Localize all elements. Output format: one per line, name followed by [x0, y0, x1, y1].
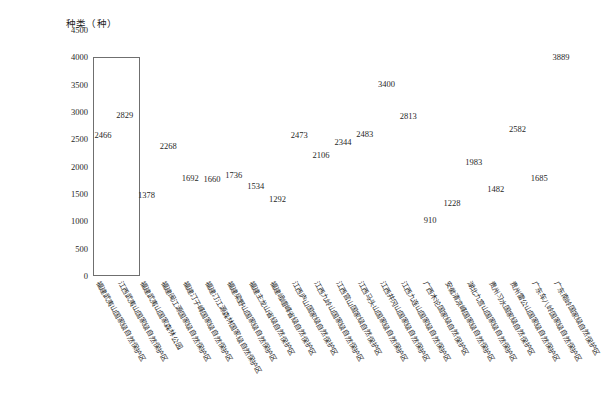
data-value-label: 3889 — [553, 53, 570, 62]
data-value-label: 1482 — [487, 185, 504, 194]
plot-area: 2466282913782268169216601736153412922473… — [92, 30, 572, 276]
y-axis-tick-label: 2500 — [58, 135, 88, 144]
data-value-label: 2106 — [313, 151, 330, 160]
data-value-label: 1378 — [138, 190, 155, 199]
y-axis-tick-label: 500 — [58, 245, 88, 254]
y-axis-tick-label: 2000 — [58, 163, 88, 172]
y-axis-tick-label: 1500 — [58, 190, 88, 199]
data-value-label: 1228 — [444, 199, 461, 208]
y-axis-tick-label: 3500 — [58, 81, 88, 90]
data-value-label: 1685 — [531, 174, 548, 183]
data-value-label: 1292 — [269, 195, 286, 204]
data-value-label: 2829 — [116, 111, 133, 120]
data-value-label: 1660 — [204, 175, 221, 184]
y-axis-tick-label: 3000 — [58, 108, 88, 117]
data-value-label: 1736 — [225, 171, 242, 180]
y-axis-tick-label: 1000 — [58, 217, 88, 226]
data-value-label: 2466 — [94, 131, 111, 140]
data-value-label: 910 — [424, 216, 437, 225]
data-value-label: 1534 — [247, 182, 264, 191]
y-axis-tick-label: 4500 — [58, 26, 88, 35]
data-value-label: 1983 — [465, 157, 482, 166]
data-value-label: 2344 — [334, 138, 351, 147]
data-value-label: 2813 — [400, 112, 417, 121]
data-value-label: 2473 — [291, 131, 308, 140]
x-axis-labels: 福建武夷山国家级自然保护区江西武夷山国家级自然保护区福建武夷山国家森林公园福建闽… — [0, 278, 583, 403]
data-value-label: 2582 — [509, 125, 526, 134]
data-value-label: 2268 — [160, 142, 177, 151]
data-value-label: 2483 — [356, 130, 373, 139]
highlight-region — [93, 57, 140, 276]
data-value-label: 3400 — [378, 80, 395, 89]
data-value-label: 1692 — [182, 173, 199, 182]
y-axis-tick-label: 4000 — [58, 53, 88, 62]
